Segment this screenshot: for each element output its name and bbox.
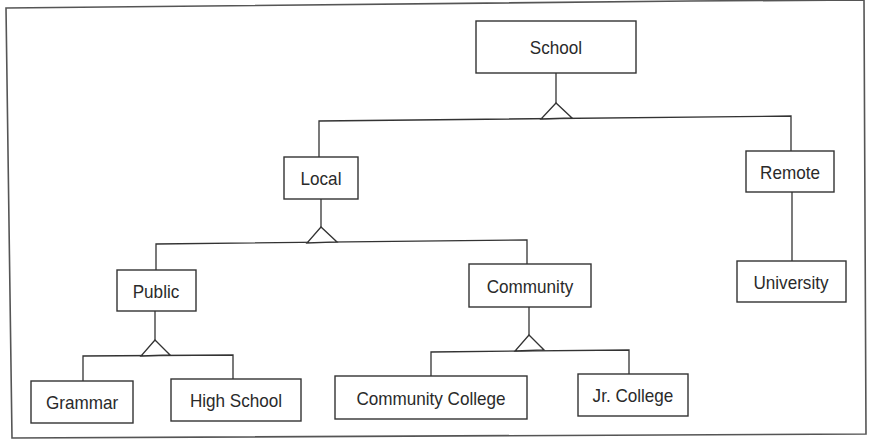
school-hierarchy-diagram: School Local Remote University Public Co… bbox=[0, 0, 869, 440]
node-jr-college[interactable]: Jr. College bbox=[578, 374, 688, 416]
generalization-triangle-icon bbox=[141, 340, 170, 356]
node-label: Jr. College bbox=[593, 385, 674, 406]
community-generalization bbox=[431, 307, 629, 376]
node-label: Community bbox=[487, 276, 574, 297]
node-grammar[interactable]: Grammar bbox=[31, 381, 133, 423]
node-remote[interactable]: Remote bbox=[746, 151, 834, 192]
node-community-college[interactable]: Community College bbox=[335, 376, 527, 419]
generalization-triangle-icon bbox=[307, 227, 337, 243]
node-label: Public bbox=[133, 281, 180, 302]
node-public[interactable]: Public bbox=[117, 270, 196, 311]
node-label: Grammar bbox=[46, 392, 119, 413]
node-label: Community College bbox=[356, 388, 505, 409]
node-label: Local bbox=[301, 168, 342, 189]
node-label: University bbox=[753, 272, 829, 293]
generalization-triangle-icon bbox=[515, 335, 544, 351]
node-label: School bbox=[530, 37, 582, 58]
node-university[interactable]: University bbox=[737, 261, 846, 302]
node-label: Remote bbox=[760, 162, 820, 183]
school-generalization bbox=[319, 73, 791, 157]
node-local[interactable]: Local bbox=[284, 157, 358, 199]
public-generalization bbox=[83, 311, 233, 381]
diagram-frame bbox=[6, 0, 866, 438]
node-high-school[interactable]: High School bbox=[171, 379, 301, 421]
generalization-triangle-icon bbox=[541, 103, 572, 119]
node-community[interactable]: Community bbox=[469, 264, 591, 307]
node-school[interactable]: School bbox=[476, 21, 636, 73]
local-generalization bbox=[156, 199, 527, 270]
node-label: High School bbox=[190, 390, 282, 411]
